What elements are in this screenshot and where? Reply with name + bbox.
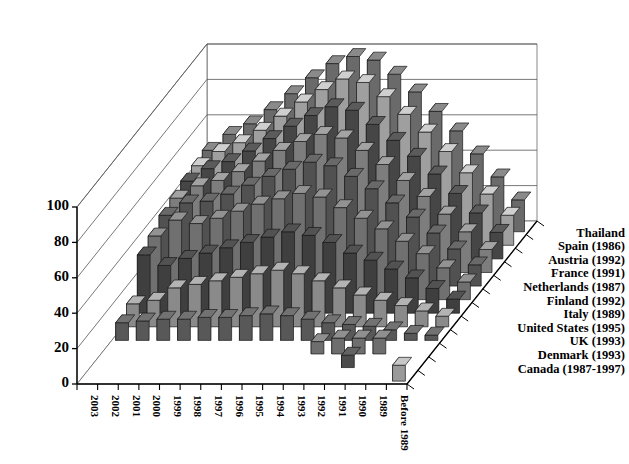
- bar-front-face: [178, 319, 191, 340]
- bar-front-face: [415, 311, 428, 327]
- depth-tick-6: [472, 303, 479, 308]
- y-tick-label-0: 0: [62, 374, 70, 390]
- depth-tick-9: [505, 262, 512, 267]
- series-label-1: Spain (1986): [558, 239, 625, 253]
- series-label-2: Austria (1992): [548, 253, 625, 267]
- bar-front-face: [404, 333, 417, 340]
- bar-front-face: [116, 323, 129, 341]
- y-tick-label-20: 20: [54, 339, 69, 355]
- bar-front-face: [436, 316, 449, 327]
- x-tick-label-13: 1990: [357, 395, 369, 418]
- bar-front-face: [198, 317, 211, 340]
- bar-front-face: [332, 338, 345, 354]
- series-label-9: Denmark (1993): [538, 348, 625, 362]
- x-tick-label-0: 2003: [89, 395, 101, 418]
- depth-tick-10: [515, 248, 522, 253]
- depth-tick-11: [526, 235, 533, 240]
- series-label-8: UK (1993): [570, 334, 625, 348]
- y-tick-label-100: 100: [47, 197, 70, 213]
- bar-front-face: [157, 319, 170, 340]
- series-label-3: France (1991): [551, 266, 625, 280]
- x-tick-label-2: 2001: [131, 395, 143, 417]
- depth-tick-0: [407, 384, 414, 389]
- depth-tick-5: [461, 316, 468, 321]
- bar-front-face: [301, 319, 314, 340]
- depth-tick-2: [429, 357, 436, 362]
- series-label-7: United States (1995): [517, 321, 625, 335]
- x-tick-label-5: 1998: [192, 395, 204, 418]
- bar-front-face: [342, 355, 355, 367]
- bar-front-face: [373, 338, 386, 354]
- depth-tick-1: [418, 370, 425, 375]
- depth-tick-12: [537, 221, 544, 226]
- depth-tick-4: [450, 330, 457, 335]
- x-tick-label-4: 1999: [172, 395, 184, 418]
- bar-front-face: [239, 316, 252, 341]
- x-tick-label-10: 1993: [296, 395, 308, 418]
- x-tick-label-14: 1989: [378, 395, 390, 418]
- bar-front-face: [136, 321, 149, 340]
- y-tick-label-40: 40: [54, 304, 69, 320]
- bar-front-face: [393, 365, 406, 381]
- x-tick-label-3: 2000: [151, 395, 163, 418]
- series-label-5: Finland (1992): [547, 294, 625, 308]
- series-label-10: Canada (1987-1997): [518, 362, 625, 376]
- y-tick-label-60: 60: [54, 268, 69, 284]
- chart-container: 0204060801002003200220012000199919981997…: [0, 0, 629, 464]
- bar-front-face: [281, 316, 294, 341]
- series-label-0: Thailand: [576, 226, 625, 240]
- series-label-6: Italy (1989): [564, 307, 625, 321]
- depth-tick-7: [483, 289, 490, 294]
- x-tick-label-1: 2002: [110, 395, 122, 418]
- series-label-4: Netherlands (1987): [523, 280, 625, 294]
- x-tick-label-6: 1997: [213, 395, 225, 418]
- three-d-bar-chart: 0204060801002003200220012000199919981997…: [0, 0, 629, 464]
- x-tick-label-9: 1994: [275, 395, 287, 418]
- depth-tick-8: [494, 275, 501, 280]
- x-tick-label-7: 1996: [234, 395, 246, 418]
- bar-front-face: [260, 314, 273, 341]
- x-tick-label-11: 1992: [316, 395, 328, 418]
- bar-front-face: [311, 342, 324, 354]
- x-tick-label-15: Before 1989: [399, 395, 411, 451]
- bar-front-face: [425, 335, 438, 340]
- depth-tick-3: [440, 343, 447, 348]
- x-tick-label-12: 1991: [337, 395, 349, 417]
- x-tick-label-8: 1995: [254, 395, 266, 418]
- bar-front-face: [219, 317, 232, 340]
- y-tick-label-80: 80: [54, 233, 69, 249]
